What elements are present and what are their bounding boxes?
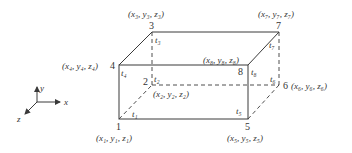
node-4-t: t₄ (121, 68, 127, 78)
node-6-number: 6 (283, 80, 288, 91)
node-7-coord: (x₇, y₇, z₇) (258, 9, 294, 19)
z-axis-label: z (16, 114, 21, 124)
brick-element-diagram: y x z 1 2 3 4 5 6 7 8 (x₁, y₁, z₁) (x₂, … (0, 0, 352, 153)
node-4-coord: (x₄, y₄, z₄) (62, 61, 98, 71)
node-6-coord: (x₆, y₆, z₆) (291, 81, 327, 91)
node-1-t: t₁ (132, 109, 138, 119)
node-7-t: t₇ (269, 40, 275, 50)
x-axis-label: x (63, 97, 68, 107)
edge-5-6 (248, 85, 279, 119)
node-6-t: t₆ (270, 74, 276, 84)
y-axis-label: y (39, 83, 44, 93)
edge-4-3 (119, 32, 152, 65)
node-8-number: 8 (238, 66, 243, 77)
axes-triad: y x z (16, 83, 68, 124)
node-5-t: t₅ (236, 106, 242, 116)
node-1-number: 1 (116, 121, 121, 132)
node-coordinates: (x₁, y₁, z₁) (x₂, y₂, z₂) (x₃, y₃, z₃) (… (62, 9, 327, 143)
z-axis-arrow (25, 102, 37, 114)
node-8-coord: (x₈, y₈, z₈) (203, 55, 239, 65)
node-2-number: 2 (143, 76, 148, 87)
node-1-coord: (x₁, y₁, z₁) (96, 133, 132, 143)
node-5-number: 5 (245, 121, 250, 132)
node-7-number: 7 (276, 20, 281, 31)
node-8-t: t₈ (251, 67, 257, 77)
node-3-t: t₃ (155, 35, 161, 45)
node-4-number: 4 (110, 60, 115, 71)
node-3-coord: (x₃, y₃, z₃) (128, 9, 164, 19)
node-3-number: 3 (149, 20, 154, 31)
node-2-t: t₂ (154, 74, 160, 84)
node-5-coord: (x₅, y₅, z₅) (227, 133, 263, 143)
node-2-coord: (x₂, y₂, z₂) (153, 89, 189, 99)
